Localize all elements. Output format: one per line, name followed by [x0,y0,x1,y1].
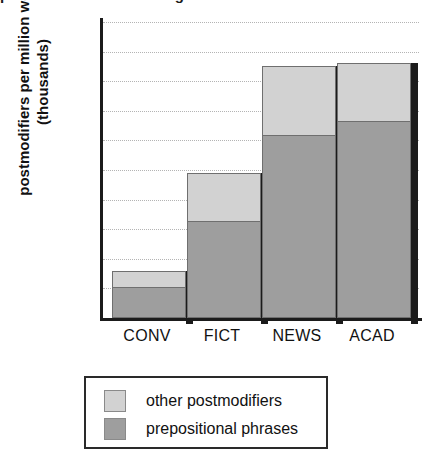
legend-label-other-postmodifiers: other postmodifiers [146,392,282,410]
legend-label-prepositional-phrases: prepositional phrases [146,420,298,438]
bar-group-acad[interactable] [337,63,411,318]
bar-segment-prepositional-phrases-acad [338,121,410,318]
bar-group-conv[interactable] [112,271,186,318]
bar-stack-news [262,66,336,318]
legend-item-prepositional-phrases[interactable]: prepositional phrases [104,416,298,442]
x-tick-label-acad: ACAD [329,327,415,345]
bar-group-news[interactable] [262,66,336,318]
gridline-90 [103,52,419,53]
gridline-100 [103,22,419,23]
x-tick-label-conv: CONV [104,327,190,345]
chart-figure: postmodifiers across registers postmodif… [0,0,425,462]
plot-area [103,22,419,318]
x-tick-label-news: NEWS [254,327,340,345]
bar-segment-prepositional-phrases-conv [113,287,185,318]
legend-swatch-other-postmodifiers [104,390,126,412]
bar-segment-other-postmodifiers-acad [338,64,410,121]
chart-title-cropped: postmodifiers across registers [0,0,425,4]
bar-segment-other-postmodifiers-news [263,67,335,135]
x-tick-label-fict: FICT [179,327,265,345]
bar-stack-acad [337,63,411,318]
bar-stack-fict [187,173,261,318]
bar-segment-prepositional-phrases-news [263,135,335,318]
legend-swatch-prepositional-phrases [104,418,126,440]
bar-segment-other-postmodifiers-conv [113,272,185,287]
bar-shadow-acad [411,63,418,324]
legend-item-other-postmodifiers[interactable]: other postmodifiers [104,388,282,414]
y-axis-title: postmodifiers per million words (thousan… [14,0,54,212]
chart-legend: other postmodifiers prepositional phrase… [84,376,328,449]
bar-segment-other-postmodifiers-fict [188,174,260,221]
bar-segment-prepositional-phrases-fict [188,221,260,318]
bar-group-fict[interactable] [187,173,261,318]
bar-stack-conv [112,271,186,318]
